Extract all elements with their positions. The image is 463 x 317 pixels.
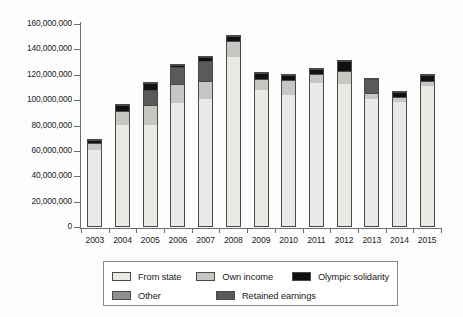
x-axis-tick [219,228,220,233]
y-axis-tick-label: 40,000,000 [0,170,72,180]
y-axis-tick-label: 80,000,000 [0,120,72,130]
bar-segment-from-state [116,125,129,227]
bar-segment-retained-earnings [365,79,378,93]
y-axis-tick [74,24,80,25]
y-axis-tick-label: 140,000,000 [0,43,72,53]
legend-swatch-own-income [196,272,215,281]
x-axis-tick [81,228,82,233]
bar-2005 [143,82,158,227]
legend-item-own-income: Own income [196,272,292,282]
legend-label-own-income: Own income [222,272,273,282]
x-axis-tick [275,228,276,233]
legend-swatch-from-state [112,272,131,281]
y-axis-tick-label: 20,000,000 [0,196,72,206]
x-axis-tick [247,228,248,233]
bar-segment-own-income [199,81,212,99]
bar-segment-from-state [393,102,406,226]
x-axis-tick-label-2015: 2015 [407,235,447,245]
y-axis-tick [74,227,80,228]
legend-label-olympic-solidarity: Olympic solidarity [318,272,389,282]
x-axis-tick [441,228,442,233]
y-axis-tick [74,202,80,203]
y-axis-tick-label: 60,000,000 [0,145,72,155]
x-axis-tick [413,228,414,233]
x-axis-tick [330,228,331,233]
bar-segment-from-state [255,90,268,226]
y-axis-tick-label: 160,000,000 [0,18,72,28]
y-axis-tick-label: 0 [0,221,72,231]
x-axis-tick [109,228,110,233]
bar-2003 [87,139,102,227]
bar-segment-from-state [227,57,240,226]
bar-segment-own-income [282,80,295,95]
bar-segment-from-state [338,84,351,226]
bar-segment-own-income [310,74,323,83]
bar-segment-olympic-solidarity [144,83,157,91]
bar-segment-from-state [144,125,157,227]
chart-legend: From state Own income Olympic solidarity… [103,261,398,306]
bar-2008 [226,35,241,227]
bar-2012 [337,60,352,227]
bar-segment-own-income [171,84,184,103]
bar-segment-own-income [338,71,351,84]
bar-segment-retained-earnings [199,61,212,81]
legend-label-other: Other [138,291,161,301]
bar-segment-from-state [365,99,378,226]
legend-item-olympic-solidarity: Olympic solidarity [292,272,389,282]
bar-2013 [364,78,379,227]
legend-swatch-retained-earnings [216,291,235,300]
bar-segment-from-state [310,83,323,226]
x-axis-tick [358,228,359,233]
y-axis-tick [74,75,80,76]
bar-segment-olympic-solidarity [338,61,351,71]
plot-area [81,24,441,227]
bar-segment-from-state [421,86,434,226]
bar-segment-own-income [227,41,240,57]
bar-segment-from-state [199,99,212,226]
x-axis-tick [136,228,137,233]
y-axis-tick [74,151,80,152]
bar-2004 [115,104,130,227]
bar-2010 [281,74,296,227]
bar-segment-own-income [116,111,129,125]
bar-segment-own-income [255,79,268,90]
x-axis-tick [303,228,304,233]
stacked-bar-chart: 020,000,00040,000,00060,000,00080,000,00… [0,0,463,317]
legend-label-retained-earnings: Retained earnings [242,291,316,301]
legend-item-retained-earnings: Retained earnings [216,291,334,301]
x-axis-tick [386,228,387,233]
y-axis-tick [74,49,80,50]
bar-2014 [392,91,407,227]
bar-2007 [198,56,213,227]
legend-swatch-olympic-solidarity [292,272,311,281]
x-axis-line [80,228,442,229]
bar-segment-own-income [88,143,101,150]
y-axis-tick [74,126,80,127]
bar-segment-from-state [88,150,101,226]
y-axis-tick [74,100,80,101]
legend-row-1: From state Own income Olympic solidarity [112,267,389,286]
bar-2011 [309,68,324,227]
bar-segment-retained-earnings [144,90,157,105]
bar-segment-from-state [282,95,295,226]
x-axis-tick [164,228,165,233]
y-axis-tick-label: 100,000,000 [0,94,72,104]
x-axis-tick [192,228,193,233]
bar-2009 [254,72,269,228]
bar-segment-retained-earnings [171,67,184,83]
bar-segment-from-state [171,103,184,226]
legend-swatch-other [112,291,131,300]
bar-segment-own-income [144,105,157,124]
bar-2006 [170,64,185,227]
y-axis-tick-label: 120,000,000 [0,69,72,79]
legend-item-from-state: From state [112,272,196,282]
legend-label-from-state: From state [138,272,181,282]
legend-item-other: Other [112,291,216,301]
y-axis-tick [74,176,80,177]
bar-2015 [420,74,435,227]
legend-row-2: Other Retained earnings [112,286,389,305]
